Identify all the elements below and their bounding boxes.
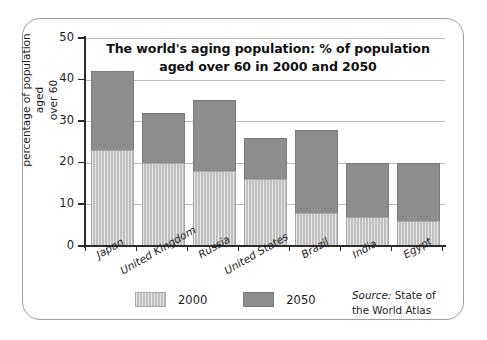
x-tick-mark-5 <box>340 246 341 251</box>
legend-swatch-2050-icon <box>243 292 274 307</box>
y-tick-mark-30 <box>78 120 84 122</box>
bar-2000-japan <box>91 150 134 246</box>
source-prefix: Source: <box>352 289 391 301</box>
legend-label-2050: 2050 <box>286 293 315 307</box>
source-note: Source: State of the World Atlas <box>352 288 462 318</box>
y-axis-line <box>84 36 86 248</box>
x-tick-mark-3 <box>238 246 239 251</box>
y-tick-mark-50 <box>78 37 84 39</box>
y-tick-mark-0 <box>78 245 84 247</box>
y-tick-label-10: 10 <box>48 198 74 210</box>
y-axis-title-wrapper: percentage of population agedover 60 <box>20 20 60 180</box>
chart-figure: 50 40 30 20 10 0 percentage of populatio… <box>0 0 487 340</box>
legend-swatch-2000-icon <box>135 292 166 307</box>
y-axis-title-line2: over 60 <box>47 80 59 120</box>
chart-title-line2: aged over 60 in 2000 and 2050 <box>159 59 376 74</box>
y-tick-label-0: 0 <box>48 240 74 252</box>
x-tick-mark-1 <box>136 246 137 251</box>
source-line1: State of <box>395 289 436 301</box>
x-tick-mark-7 <box>442 246 443 251</box>
y-tick-mark-20 <box>78 162 84 164</box>
x-tick-mark-4 <box>289 246 290 251</box>
bar-2000-russia <box>193 171 236 246</box>
chart-legend: 2000 2050 <box>135 292 316 307</box>
chart-title-line1: The world's aging population: % of popul… <box>106 41 430 56</box>
y-axis-title: percentage of population agedover 60 <box>20 20 60 180</box>
source-line2: the World Atlas <box>352 304 431 316</box>
x-tick-mark-2 <box>187 246 188 251</box>
x-tick-mark-6 <box>391 246 392 251</box>
y-tick-mark-40 <box>78 79 84 81</box>
legend-entry-2000[interactable]: 2000 <box>135 292 207 307</box>
legend-label-2000: 2000 <box>178 293 207 307</box>
legend-entry-2050[interactable]: 2050 <box>243 292 315 307</box>
y-axis-title-line1: percentage of population aged <box>20 33 45 167</box>
y-tick-mark-10 <box>78 203 84 205</box>
x-tick-mark-0 <box>85 246 86 251</box>
chart-title: The world's aging population: % of popul… <box>98 40 438 77</box>
